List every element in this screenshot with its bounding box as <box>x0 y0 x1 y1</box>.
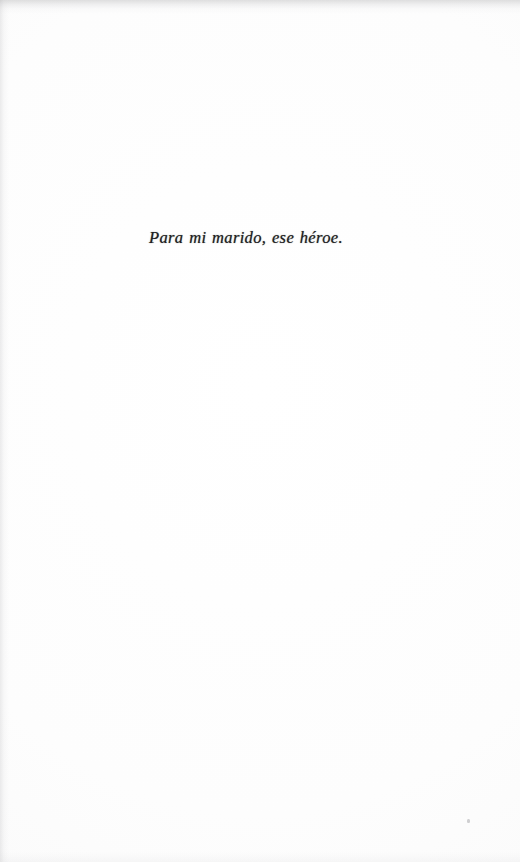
dedication-block: Para mi marido, ese héroe. <box>0 228 520 248</box>
paper-texture <box>0 0 520 862</box>
scan-speck-artifact <box>467 819 470 823</box>
scan-edge-shadow-top <box>0 0 520 14</box>
scan-edge-shadow-bottom <box>0 852 520 862</box>
scan-edge-shadow-left <box>0 0 9 862</box>
dedication-text: Para mi marido, ese héroe. <box>149 228 343 248</box>
scanned-book-page: Para mi marido, ese héroe. <box>0 0 520 862</box>
